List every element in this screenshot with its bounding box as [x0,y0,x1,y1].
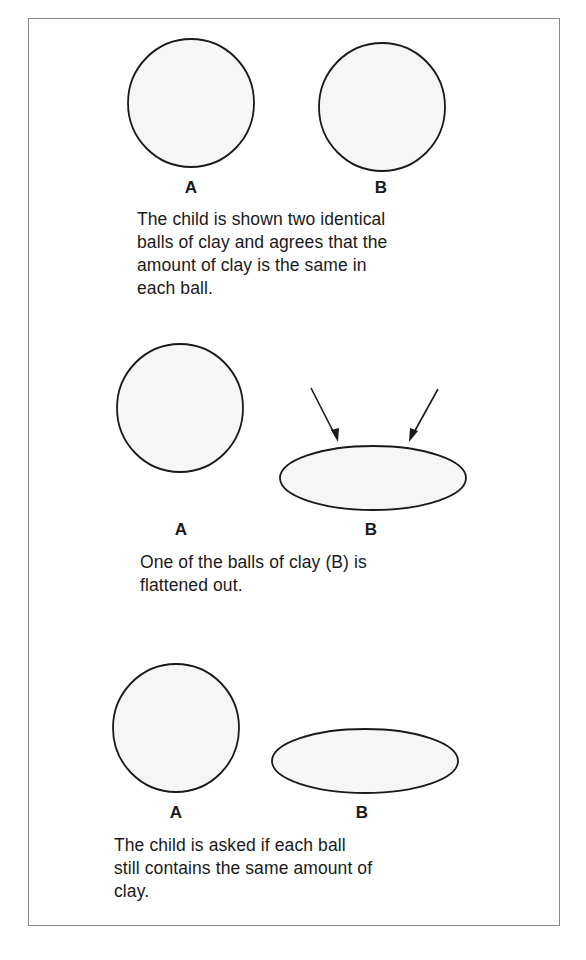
label-a: A [185,178,197,198]
caption-line: each ball. [137,277,387,300]
caption-panel-3: The child is asked if each ball still co… [114,834,372,903]
caption-line: flattened out. [140,574,367,597]
panel-1-shapes [128,39,445,171]
caption-panel-2: One of the balls of clay (B) is flattene… [140,551,367,597]
label-b: B [356,803,368,823]
clay-ball-a [113,664,239,792]
panel-3-shapes [113,664,458,793]
flattened-clay-b [280,446,466,510]
label-a: A [175,520,187,540]
clay-conservation-illustration [0,0,586,960]
caption-line: amount of clay is the same in [137,254,387,277]
panel-2-shapes [117,344,466,510]
press-arrow-right-icon [409,389,438,442]
press-arrow-left-icon [311,388,339,442]
caption-panel-1: The child is shown two identical balls o… [137,208,387,300]
caption-line: The child is shown two identical [137,208,387,231]
caption-line: One of the balls of clay (B) is [140,551,367,574]
clay-ball-a [117,344,243,472]
clay-ball-a [128,39,254,167]
caption-line: balls of clay and agrees that the [137,231,387,254]
label-a: A [170,803,182,823]
caption-line: The child is asked if each ball [114,834,372,857]
label-b: B [365,520,377,540]
caption-line: clay. [114,880,372,903]
label-b: B [375,178,387,198]
caption-line: still contains the same amount of [114,857,372,880]
flattened-clay-b [272,729,458,793]
clay-ball-b [319,43,445,171]
